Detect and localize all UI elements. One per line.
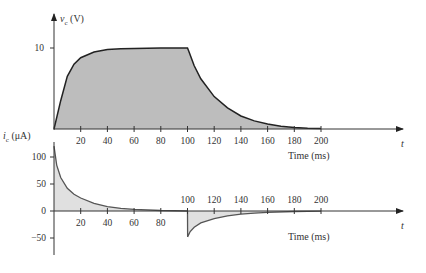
x-tick-label: 100 xyxy=(180,136,195,146)
voltage-y-ticks: 10 xyxy=(35,43,55,53)
y-tick-label: 10 xyxy=(35,43,45,53)
x-tick-label: 200 xyxy=(314,195,329,205)
current-x-label: Time (ms) xyxy=(288,231,330,243)
voltage-fill-area xyxy=(54,48,321,129)
x-tick-label: 180 xyxy=(287,195,302,205)
x-tick-label: 60 xyxy=(129,136,139,146)
rc-charging-chart: 20406080100120140160180200 10 vc (V) Tim… xyxy=(0,0,426,273)
x-tick-label: 20 xyxy=(76,136,86,146)
x-tick-label: 20 xyxy=(76,218,86,228)
current-y-ticks: 100500−50 xyxy=(31,152,54,243)
x-tick-label: 80 xyxy=(156,218,166,228)
x-tick-label: 200 xyxy=(314,136,329,146)
x-tick-label: 60 xyxy=(129,218,139,228)
y-tick-label: −50 xyxy=(31,233,46,243)
x-tick-label: 40 xyxy=(103,136,113,146)
x-tick-label: 140 xyxy=(234,136,249,146)
x-tick-label: 140 xyxy=(234,195,249,205)
current-y-label: ic (μA) xyxy=(3,130,31,144)
x-tick-label: 120 xyxy=(207,195,222,205)
x-tick-label: 100 xyxy=(180,195,195,205)
y-tick-label: 100 xyxy=(32,152,47,162)
x-tick-label: 40 xyxy=(103,218,113,228)
voltage-plot: 20406080100120140160180200 10 vc (V) Tim… xyxy=(35,13,405,162)
x-tick-label: 80 xyxy=(156,136,166,146)
x-tick-label: 160 xyxy=(260,195,275,205)
x-tick-label: 180 xyxy=(287,136,302,146)
voltage-x-label: Time (ms) xyxy=(288,150,330,162)
y-tick-label: 50 xyxy=(37,179,47,189)
current-plot: 20406080100120140160180200 100500−50 ic … xyxy=(3,130,404,255)
voltage-y-label: vc (V) xyxy=(60,13,84,27)
voltage-t-label: t xyxy=(401,138,404,149)
current-curve xyxy=(54,146,321,237)
x-tick-label: 120 xyxy=(207,136,222,146)
y-tick-label: 0 xyxy=(41,206,46,216)
current-t-label: t xyxy=(401,220,404,231)
x-tick-label: 160 xyxy=(260,136,275,146)
